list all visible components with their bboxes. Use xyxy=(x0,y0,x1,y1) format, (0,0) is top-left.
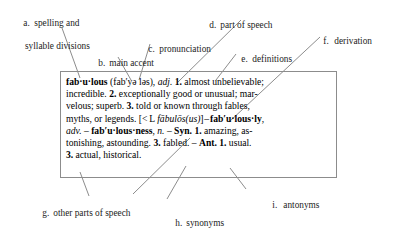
callout-b-letter: b. xyxy=(98,58,109,70)
callout-g: g.other parts of speech xyxy=(33,196,130,228)
entry-line-4: myths, or legends. [< L fābulōs(us)] – f… xyxy=(66,113,334,125)
entry-derived-pos-1: adv. xyxy=(66,125,82,136)
figure-canvas: a.spelling and syllable divisions b.main… xyxy=(0,0,398,228)
callout-h-label: synonyms xyxy=(186,218,224,229)
callout-d: d.part of speech xyxy=(200,8,272,43)
entry-line-2: incredible. 2. exceptionally good or unu… xyxy=(66,88,334,100)
entry-etymology-root: fābulōs(us) xyxy=(157,113,200,124)
entry-line-7: 3. actual, historical. xyxy=(66,149,334,161)
callout-i-label: antonyms xyxy=(283,200,319,212)
entry-syn-sense-1: 1. xyxy=(194,125,201,136)
entry-headword: fab·u·lous xyxy=(66,76,108,87)
callout-a: a.spelling and syllable divisions xyxy=(14,6,90,75)
callout-c-label: pronunciation xyxy=(159,44,211,56)
entry-sense-1-number: 1. xyxy=(175,76,182,87)
entry-derived-form-1: fab′u·lous·ly xyxy=(210,113,262,124)
callout-d-label: part of speech xyxy=(220,20,272,32)
callout-e-letter: e. xyxy=(241,54,252,66)
entry-syn-sense-3: 3. xyxy=(153,137,160,148)
entry-line-3: velous; superb. 3. told or known through… xyxy=(66,100,334,112)
callout-h: h.synonyms xyxy=(166,206,224,228)
callout-f-label: derivation xyxy=(334,36,372,48)
entry-derived-pos-2: n. xyxy=(157,125,164,136)
entry-ant-sense-3: 3. xyxy=(66,149,73,160)
callout-f-letter: f. xyxy=(323,36,334,48)
entry-line-5: adv. – fab′u·lous·ness, n. – Syn. 1. ama… xyxy=(66,125,334,137)
entry-sense-3-number: 3. xyxy=(127,100,134,111)
callout-c-letter: c. xyxy=(148,44,159,56)
entry-line-6: tonishing, astounding. 3. fabled. – Ant.… xyxy=(66,137,334,149)
dictionary-entry-text: fab·u·lous (fab′yə ləs), adj. 1. almost … xyxy=(66,76,334,161)
entry-ant-sense-1: 1. xyxy=(219,137,226,148)
callout-a-label: spelling and xyxy=(34,18,79,30)
callout-d-letter: d. xyxy=(209,20,220,32)
callout-f: f.derivation xyxy=(314,24,372,59)
callout-a-label2: syllable divisions xyxy=(14,41,90,53)
callout-i-letter: i. xyxy=(272,200,283,212)
entry-antonyms-label: Ant. xyxy=(199,137,217,148)
entry-line-1: fab·u·lous (fab′yə ləs), adj. 1. almost … xyxy=(66,76,334,88)
entry-sense-2-number: 2. xyxy=(109,88,116,99)
callout-e-label: definitions xyxy=(252,54,292,66)
callout-a-letter: a. xyxy=(23,18,34,30)
entry-part-of-speech: adj. xyxy=(158,76,173,87)
callout-g-letter: g. xyxy=(42,208,53,220)
callout-g-label: other parts of speech xyxy=(53,208,130,220)
entry-pronunciation: (fab′yə ləs) xyxy=(110,76,153,87)
entry-synonyms-label: Syn. xyxy=(174,125,192,136)
callout-i: i.antonyms xyxy=(263,188,319,223)
callout-h-letter: h. xyxy=(175,218,186,229)
entry-derived-form-2: fab′u·lous·ness xyxy=(91,125,152,136)
